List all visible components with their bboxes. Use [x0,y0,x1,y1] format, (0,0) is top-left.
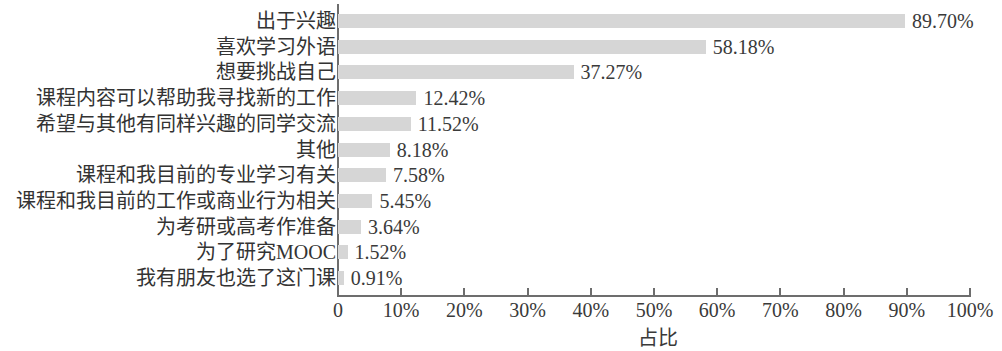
x-axis-tick-label: 100% [925,299,1002,322]
category-label: 我有朋友也选了这门课 [136,265,336,291]
bar-value-label: 89.70% [905,8,974,34]
category-label: 出于兴趣 [256,8,336,34]
bar-track: 3.64% [338,214,970,240]
bar-track: 7.58% [338,162,970,188]
bar [338,220,361,234]
bar-track: 37.27% [338,59,970,85]
bar-row: 我有朋友也选了这门课0.91% [0,265,1002,291]
bar-value-label: 8.18% [390,137,449,163]
bar-value-label: 0.91% [344,265,403,291]
bar-value-label: 1.52% [348,239,407,265]
bar [338,65,574,79]
bar-track: 8.18% [338,137,970,163]
x-axis-tick [906,288,908,296]
bar-value-label: 5.45% [372,188,431,214]
bar-track: 11.52% [338,111,970,137]
bar-track: 89.70% [338,8,970,34]
x-axis-tick [590,288,592,296]
bar-value-label: 58.18% [706,34,775,60]
category-label: 为了研究MOOC [196,239,336,265]
bar-row: 想要挑战自己37.27% [0,59,1002,85]
bar-row: 课程和我目前的专业学习有关7.58% [0,162,1002,188]
bar [338,143,390,157]
bar-row: 出于兴趣89.70% [0,8,1002,34]
bar-value-label: 11.52% [411,111,479,137]
x-axis-tick [716,288,718,296]
x-axis-tick [653,288,655,296]
bar-row: 课程和我目前的工作或商业行为相关5.45% [0,188,1002,214]
bar-value-label: 3.64% [361,214,420,240]
category-label: 为考研或高考作准备 [156,214,336,240]
bar-row: 其他8.18% [0,137,1002,163]
bar-value-label: 7.58% [386,162,445,188]
bar [338,168,386,182]
category-label: 想要挑战自己 [216,59,336,85]
x-axis-tick [527,288,529,296]
bar-track: 1.52% [338,239,970,265]
bar [338,14,905,28]
bar [338,91,416,105]
x-axis-tick [843,288,845,296]
bar [338,117,411,131]
x-axis-tick [463,288,465,296]
category-label: 课程和我目前的工作或商业行为相关 [16,188,336,214]
bar-track: 58.18% [338,34,970,60]
bar-row: 课程内容可以帮助我寻找新的工作12.42% [0,85,1002,111]
category-label: 课程内容可以帮助我寻找新的工作 [36,85,336,111]
bar-row: 为了研究MOOC1.52% [0,239,1002,265]
x-axis-title: 占比 [0,322,1002,351]
bar-track: 12.42% [338,85,970,111]
bar-value-label: 37.27% [574,59,643,85]
bar-value-label: 12.42% [416,85,485,111]
bar-row: 为考研或高考作准备3.64% [0,214,1002,240]
category-label: 课程和我目前的专业学习有关 [76,162,336,188]
category-label: 喜欢学习外语 [216,34,336,60]
x-axis-tick [779,288,781,296]
bar [338,194,372,208]
bar [338,40,706,54]
bar-row: 希望与其他有同样兴趣的同学交流11.52% [0,111,1002,137]
x-axis-tick [400,288,402,296]
bar-row: 喜欢学习外语58.18% [0,34,1002,60]
bar-track: 5.45% [338,188,970,214]
category-label: 其他 [296,137,336,163]
category-label: 希望与其他有同样兴趣的同学交流 [36,111,336,137]
bar [338,245,348,259]
x-axis-tick [969,288,971,296]
